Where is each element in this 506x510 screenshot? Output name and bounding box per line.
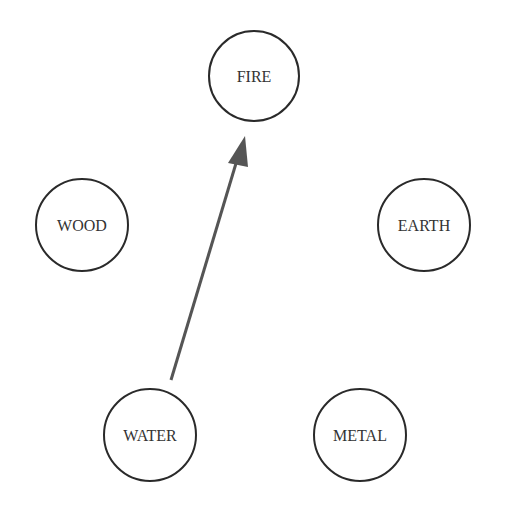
fire-label: FIRE (237, 68, 272, 85)
metal-label: METAL (333, 427, 387, 444)
water-label: WATER (123, 427, 177, 444)
earth-label: EARTH (398, 217, 451, 234)
five-elements-diagram: FIRE WOOD EARTH WATER METAL (0, 0, 506, 510)
wood-label: WOOD (57, 217, 107, 234)
edge-water-to-fire (171, 136, 248, 380)
node-water: WATER (104, 389, 196, 481)
arrow-shaft (171, 160, 237, 380)
node-wood: WOOD (36, 179, 128, 271)
node-earth: EARTH (378, 179, 470, 271)
node-metal: METAL (314, 389, 406, 481)
arrowhead-icon (228, 136, 248, 167)
node-fire: FIRE (209, 31, 299, 121)
